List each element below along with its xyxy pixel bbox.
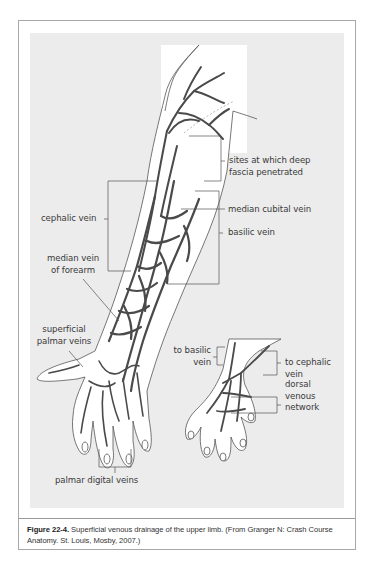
figure-frame: sites at which deep fascia penetrated ce… — [18, 20, 356, 550]
label-dorsal-venous-network: dorsal venous network — [285, 379, 319, 414]
label-line: to basilic — [169, 345, 211, 357]
label-to-basilic-vein: to basilic vein — [169, 345, 211, 368]
label-median-vein-forearm: median vein of forearm — [43, 253, 103, 276]
label-line: network — [285, 402, 319, 414]
label-line: sites at which deep — [229, 155, 310, 167]
label-line: median vein — [43, 253, 103, 265]
label-to-cephalic-vein: to cephalic vein — [285, 357, 331, 380]
label-basilic-vein: basilic vein — [228, 227, 275, 239]
label-line: of forearm — [43, 265, 103, 277]
label-line: superficial — [33, 324, 95, 336]
label-line: fascia penetrated — [229, 167, 310, 179]
upper-limb-vein-illustration — [19, 21, 357, 551]
label-superficial-palmar-veins: superficial palmar veins — [33, 324, 95, 347]
label-palmar-digital-veins: palmar digital veins — [55, 475, 138, 487]
figure-number: Figure 22-4. — [27, 525, 69, 534]
label-line: venous — [285, 391, 319, 403]
label-line: dorsal — [285, 379, 319, 391]
label-cephalic-vein: cephalic vein — [41, 213, 96, 225]
label-line: to cephalic — [285, 357, 331, 369]
caption-text: Superficial venous drainage of the upper… — [27, 525, 333, 545]
label-sites-fascia: sites at which deep fascia penetrated — [229, 155, 310, 178]
label-line: palmar veins — [33, 336, 95, 348]
caption-divider — [19, 518, 355, 519]
label-median-cubital-vein: median cubital vein — [228, 204, 311, 216]
label-line: vein — [169, 357, 211, 369]
figure-caption: Figure 22-4. Superficial venous drainage… — [27, 524, 349, 546]
